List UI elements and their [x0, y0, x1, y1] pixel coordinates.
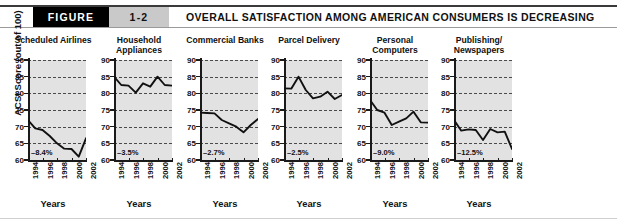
plot-area: –9.0% — [370, 60, 428, 160]
y-tick-label: 60 — [178, 156, 196, 165]
y-tick-label: 75 — [178, 106, 196, 115]
x-tick-label: 2000 — [501, 162, 511, 192]
x-tick-labels: 19941996199820002002 — [200, 162, 258, 196]
x-tick-label: 1998 — [402, 162, 412, 192]
y-tick-label: 75 — [92, 106, 110, 115]
chart-panel: Parcel Delivery90858075706560–2.5%199419… — [262, 36, 348, 223]
data-series-line — [200, 60, 258, 160]
figure-title: OVERALL SATISFACTION AMONG AMERICAN CONS… — [186, 7, 595, 27]
x-axis-label: Years — [358, 199, 432, 209]
figure-bottom-rule — [0, 218, 617, 219]
figure-label-badge: FIGURE — [33, 7, 109, 27]
y-tick-label: 90 — [92, 56, 110, 65]
data-series-line — [114, 60, 172, 160]
figure-number-badge: 1-2 — [109, 7, 169, 27]
y-tick-label: 70 — [178, 122, 196, 131]
y-tick-label: 80 — [348, 89, 366, 98]
x-tick-label: 1998 — [146, 162, 156, 192]
x-tick-labels: 19941996199820002002 — [370, 162, 428, 196]
y-tick-label: 65 — [432, 139, 450, 148]
x-tick-labels: 19941996199820002002 — [114, 162, 172, 196]
y-tick-labels: 90858075706560 — [261, 60, 280, 160]
plot-area: –2.5% — [284, 60, 342, 160]
y-tick-label: 70 — [348, 122, 366, 131]
header-bottom-rule — [0, 27, 617, 28]
y-tick-label: 75 — [6, 106, 24, 115]
x-axis-label: Years — [442, 199, 516, 209]
y-tick-label: 85 — [262, 72, 280, 81]
data-series-line — [454, 60, 512, 160]
x-axis-label: Years — [188, 199, 262, 209]
chart-panel: Personal Computers90858075706560–9.0%199… — [348, 36, 434, 223]
chart-panel: Commercial Banks90858075706560–2.7%19941… — [178, 36, 264, 223]
x-tick-label: 1996 — [218, 162, 228, 192]
y-tick-labels: 90858075706560 — [347, 60, 366, 160]
plot-area: –8.4% — [28, 60, 86, 160]
chart-panel: Scheduled Airlines90858075706560–8.4%199… — [6, 36, 92, 223]
y-tick-label: 90 — [262, 56, 280, 65]
panel-title: Publishing/ Newspapers — [440, 36, 518, 55]
x-tick-label: 1996 — [388, 162, 398, 192]
y-tick-label: 75 — [262, 106, 280, 115]
percent-change-annotation: –12.5% — [457, 148, 483, 157]
x-tick-labels: 19941996199820002002 — [454, 162, 512, 196]
y-tick-label: 85 — [178, 72, 196, 81]
panel-title: Household Appliances — [100, 36, 178, 55]
y-tick-label: 70 — [92, 122, 110, 131]
y-tick-labels: 90858075706560 — [431, 60, 450, 160]
y-tick-label: 80 — [262, 89, 280, 98]
y-tick-label: 90 — [6, 56, 24, 65]
y-tick-label: 80 — [178, 89, 196, 98]
x-tick-label: 1996 — [46, 162, 56, 192]
panel-title: Personal Computers — [356, 36, 434, 55]
x-tick-labels: 19941996199820002002 — [28, 162, 86, 196]
x-tick-label: 1996 — [302, 162, 312, 192]
percent-change-annotation: –8.4% — [31, 148, 53, 157]
y-tick-label: 65 — [178, 139, 196, 148]
percent-change-annotation: –9.0% — [373, 148, 395, 157]
percent-change-annotation: –2.5% — [287, 148, 309, 157]
percent-change-annotation: –3.5% — [117, 148, 139, 157]
plot-area: –3.5% — [114, 60, 172, 160]
chart-panel: Publishing/ Newspapers90858075706560–12.… — [432, 36, 518, 223]
y-tick-label: 85 — [6, 72, 24, 81]
x-tick-label: 1994 — [373, 162, 383, 192]
x-axis-label: Years — [102, 199, 176, 209]
x-tick-label: 2000 — [417, 162, 427, 192]
y-tick-label: 90 — [432, 56, 450, 65]
x-tick-label: 2000 — [75, 162, 85, 192]
y-tick-label: 60 — [92, 156, 110, 165]
y-tick-label: 75 — [432, 106, 450, 115]
y-tick-label: 90 — [178, 56, 196, 65]
y-tick-label: 85 — [348, 72, 366, 81]
y-tick-label: 60 — [262, 156, 280, 165]
x-tick-label: 1994 — [203, 162, 213, 192]
x-axis-label: Years — [16, 199, 90, 209]
data-series-line — [370, 60, 428, 160]
y-tick-labels: 90858075706560 — [177, 60, 196, 160]
plot-area: –2.7% — [200, 60, 258, 160]
panel-title: Scheduled Airlines — [14, 36, 92, 46]
y-tick-label: 75 — [348, 106, 366, 115]
y-tick-label: 90 — [348, 56, 366, 65]
x-tick-label: 1998 — [316, 162, 326, 192]
panel-title: Commercial Banks — [186, 36, 264, 46]
y-tick-label: 60 — [432, 156, 450, 165]
x-tick-label: 1994 — [31, 162, 41, 192]
percent-change-annotation: –2.7% — [203, 148, 225, 157]
y-tick-label: 80 — [6, 89, 24, 98]
plot-area: –12.5% — [454, 60, 512, 160]
y-tick-label: 60 — [348, 156, 366, 165]
x-tick-label: 1994 — [117, 162, 127, 192]
x-tick-label: 1998 — [60, 162, 70, 192]
y-tick-label: 65 — [92, 139, 110, 148]
x-tick-label: 1994 — [457, 162, 467, 192]
y-tick-label: 70 — [262, 122, 280, 131]
y-tick-label: 85 — [432, 72, 450, 81]
y-tick-label: 65 — [6, 139, 24, 148]
x-tick-label: 2002 — [515, 162, 525, 192]
panel-title: Parcel Delivery — [270, 36, 348, 46]
y-tick-label: 65 — [348, 139, 366, 148]
y-tick-labels: 90858075706560 — [91, 60, 110, 160]
y-tick-label: 80 — [432, 89, 450, 98]
